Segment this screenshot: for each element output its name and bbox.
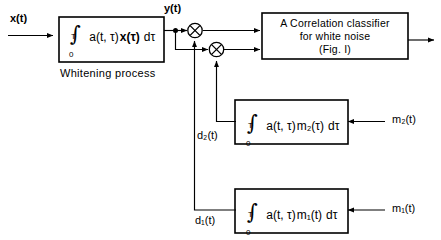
junction-dot-icon [173,28,178,33]
matched1-kernel: a(t, τ) [266,208,295,222]
matched2-integral-upper: T [248,121,253,130]
matched1-integral-lower: 0 [246,228,250,237]
matched2-signal: m₂(τ) [297,119,324,133]
label-signal-y: y(t) [164,3,181,14]
whitening-block-formula: ∫ T 0 a(t, τ)x(τ)dτ [70,24,155,45]
matched2-integral-lower: 0 [246,139,250,148]
matched1-differential: dτ [326,208,337,222]
classifier-text: A Correlation classifier for white noise… [262,17,408,56]
classifier-line-3: (Fig. I) [262,43,408,56]
whitening-differential: dτ [144,30,155,44]
whitening-kernel: a(t, τ) [89,30,118,44]
matched1-integral-upper: T [248,210,253,219]
label-input-x: x(t) [10,13,27,24]
multiplier-top [188,23,202,37]
whitening-signal: x(τ) [120,30,140,44]
wire-d2 [217,61,237,122]
matched-filter-1-formula: ∫ T 0 a(t, τ)m₁(t)dτ [247,202,338,223]
label-d2: d₂(t) [197,130,218,141]
label-m2: m₂(t) [392,114,416,125]
matched-filter-2-formula: ∫ T 0 a(t, τ)m₂(τ)dτ [247,113,340,134]
multiplier-lower [209,42,223,56]
matched2-differential: dτ [328,119,339,133]
label-d1: d₁(t) [195,215,215,226]
whitening-integral-lower: 0 [69,50,73,59]
label-m1: m₁(t) [392,203,415,214]
whitening-caption: Whitening process [60,68,156,79]
wire-d1 [195,41,237,210]
matched1-signal: m₁(t) [297,208,322,222]
whitening-integral-upper: T [71,32,76,41]
matched2-kernel: a(t, τ) [266,119,295,133]
classifier-line-1: A Correlation classifier [262,17,408,30]
classifier-line-2: for white noise [262,30,408,43]
diagram-canvas: x(t) y(t) ∫ T 0 a(t, τ)x(τ)dτ Whitening … [0,0,441,240]
